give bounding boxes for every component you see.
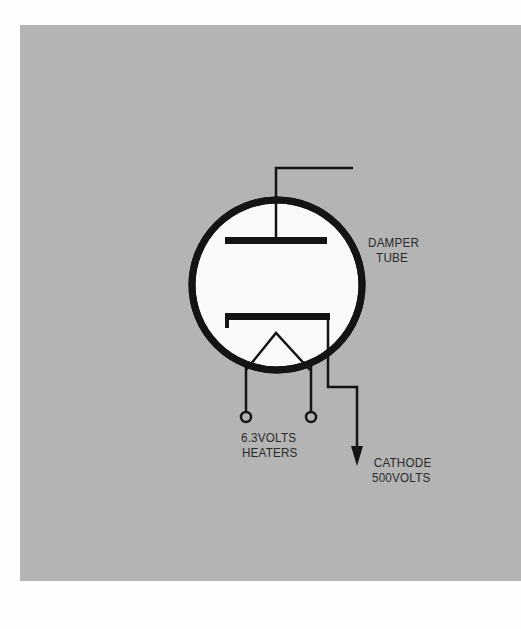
tube-label-line1: DAMPER: [368, 235, 419, 250]
heater-terminal-left-icon: [241, 412, 251, 422]
cathode-hook: [225, 313, 229, 328]
heater-label-line2: HEATERS: [241, 445, 298, 460]
damper-tube-schematic: [0, 0, 521, 629]
page: DAMPER TUBE 6.3VOLTS HEATERS CATHODE 500…: [0, 0, 521, 629]
tube-label-line2: TUBE: [368, 250, 419, 265]
heater-label-line1: 6.3VOLTS: [241, 430, 298, 445]
cathode-label-line2: 500VOLTS: [372, 470, 431, 485]
cathode-label-line1: CATHODE: [372, 455, 431, 470]
cathode-electrode: [225, 313, 330, 320]
cathode-arrow-icon: [351, 446, 363, 466]
tube-label: DAMPER TUBE: [368, 235, 419, 265]
plate-electrode: [225, 237, 327, 244]
cathode-label: CATHODE 500VOLTS: [372, 455, 431, 485]
heater-terminal-right-icon: [306, 412, 316, 422]
heater-label: 6.3VOLTS HEATERS: [241, 430, 298, 460]
